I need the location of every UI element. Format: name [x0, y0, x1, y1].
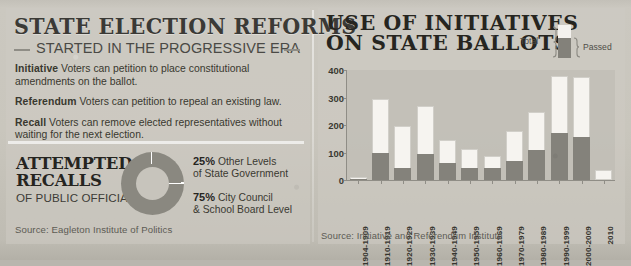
y-axis-tick	[344, 153, 347, 154]
stat-percent: 25%	[193, 155, 215, 167]
left-subtitle-wrap: STARTED IN THE PROGRESSIVE ERA	[14, 40, 300, 58]
bar-passed	[461, 168, 478, 180]
y-axis-labels: 0100200300400	[318, 63, 344, 187]
recalls-heading-line2: RECALLS	[16, 172, 129, 189]
legend-label-total: Total	[520, 36, 538, 46]
bar-passed	[551, 133, 568, 180]
x-axis-tick-label: 1980-1989	[539, 226, 548, 266]
subtitle-rule-right	[284, 49, 300, 51]
chart-legend: Total Passed	[520, 24, 628, 60]
subtitle-rule-left	[14, 49, 30, 51]
y-axis-tick	[344, 98, 347, 99]
legend-label-passed: Passed	[583, 42, 612, 52]
stat-percent: 75%	[193, 191, 215, 203]
y-axis-tick	[344, 125, 347, 126]
definition-text: Voters can remove elected representative…	[15, 117, 282, 141]
definition-term: Initiative	[15, 63, 58, 74]
definitions-list: Initiative Voters can petition to place …	[15, 63, 295, 150]
x-axis-tick-label: 2010	[606, 226, 615, 245]
bar-passed	[439, 163, 456, 180]
y-axis-tick	[344, 70, 347, 71]
left-title: STATE ELECTION REFORMS	[14, 14, 357, 39]
definition-term: Recall	[15, 117, 46, 128]
definition-item: Referendum Voters can petition to repeal…	[15, 96, 295, 109]
stat-item: 75% City Council & School Board Level	[193, 191, 305, 217]
bar-passed	[484, 168, 501, 180]
bar-passed	[528, 150, 545, 180]
section-divider	[8, 141, 304, 144]
definition-term: Referendum	[15, 96, 77, 107]
y-axis-tick-label: 200	[328, 120, 344, 131]
y-axis-tick-label: 100	[328, 148, 344, 159]
bar-passed	[417, 154, 434, 180]
y-axis-tick-label: 300	[328, 93, 344, 104]
initiatives-bar-chart	[346, 70, 615, 181]
x-axis-tick-label: 2000-2009	[584, 226, 593, 266]
bar-passed	[506, 161, 523, 180]
donut-hole	[136, 167, 169, 200]
recalls-stats: 25% Other Levels of State Government 75%…	[193, 155, 305, 227]
bar-passed	[372, 153, 389, 181]
recalls-donut-chart	[121, 152, 184, 215]
stat-label-1: City Council	[218, 192, 273, 203]
definition-text: Voters can petition to repeal an existin…	[80, 96, 282, 107]
stat-label-1: Other Levels	[218, 156, 276, 167]
attempted-recalls-heading: ATTEMPTED RECALLS OF PUBLIC OFFICIALS	[16, 155, 136, 204]
stat-label-2: of State Government	[193, 168, 305, 180]
bar-total	[595, 170, 612, 180]
definition-item: Recall Voters can remove elected represe…	[15, 117, 295, 142]
x-axis-tick-label: 1970-1979	[517, 226, 526, 266]
stat-line-1: 25% Other Levels	[193, 155, 305, 168]
y-axis-tick-label: 400	[328, 65, 344, 76]
y-axis-tick	[344, 180, 347, 181]
bar-passed	[394, 168, 411, 180]
definition-item: Initiative Voters can petition to place …	[15, 63, 295, 88]
stat-label-2: & School Board Level	[193, 204, 305, 216]
legend-swatch-total	[558, 25, 571, 58]
right-source-note: Source: Initiative and Referendum Instit…	[321, 230, 502, 241]
x-axis-labels: 1904-19091910-19191920-19291930-19391940…	[346, 182, 614, 228]
bar-passed	[573, 137, 590, 180]
left-subtitle: STARTED IN THE PROGRESSIVE ERA	[36, 40, 300, 56]
left-source-note: Source: Eagleton Institute of Politics	[15, 224, 172, 235]
stat-item: 25% Other Levels of State Government	[193, 155, 305, 181]
x-axis-tick-label: 1990-1999	[562, 226, 571, 266]
stat-line-1: 75% City Council	[193, 191, 305, 204]
panel-divider	[312, 10, 314, 242]
recalls-heading-line3: OF PUBLIC OFFICIALS	[16, 191, 136, 204]
bars-container	[347, 70, 615, 180]
legend-swatch-passed	[558, 38, 571, 58]
